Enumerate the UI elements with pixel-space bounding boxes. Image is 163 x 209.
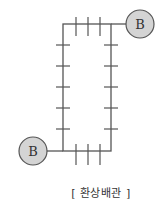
loop-rectangle xyxy=(63,24,111,151)
ring-piping-diagram: B B xyxy=(0,0,163,209)
diagram-caption: [ 환상배관 ] xyxy=(70,184,132,200)
node-top-right: B xyxy=(126,10,154,38)
node-label: B xyxy=(135,17,145,32)
bottom-ticks xyxy=(76,144,100,165)
node-bottom-left: B xyxy=(19,137,47,165)
top-ticks xyxy=(76,17,100,36)
node-label: B xyxy=(28,144,38,159)
